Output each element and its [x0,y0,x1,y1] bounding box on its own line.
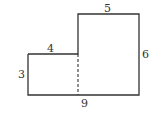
label-step-top: 4 [47,43,54,54]
shape-outline [28,14,139,95]
label-top: 5 [104,3,111,14]
label-bottom: 9 [81,98,88,109]
label-left: 3 [18,69,25,80]
l-shape-figure [0,0,153,118]
label-right: 6 [142,49,149,60]
